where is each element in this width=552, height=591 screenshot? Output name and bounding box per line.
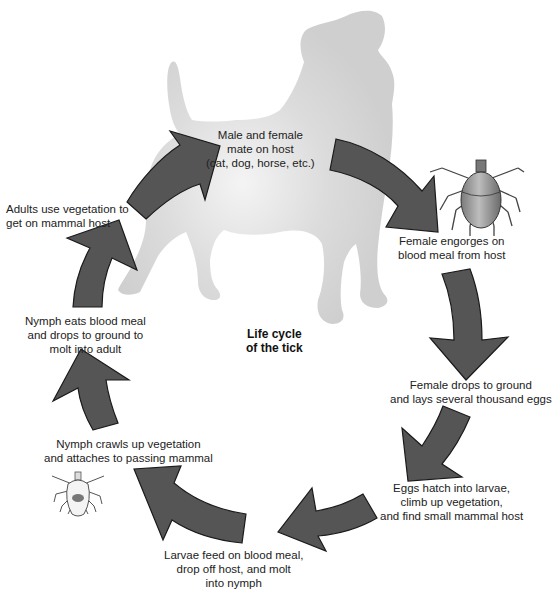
stage-label-lay-eggs: Female drops to ground and lays several … [390,378,552,406]
stage-label-larvae-feed: Larvae feed on blood meal, drop off host… [164,548,303,590]
arrow-hatch-to-larvae-icon [278,488,377,551]
arrow-lay-eggs-to-hatch-icon [402,406,470,481]
stage-label-nymph-attach: Nymph crawls up vegetation and attaches … [44,437,213,465]
stage-label-hatch: Eggs hatch into larvae, climb up vegetat… [380,481,523,523]
stage-label-nymph-molt: Nymph eats blood meal and drops to groun… [25,314,146,356]
stage-label-engorge: Female engorges on blood meal from host [398,234,505,262]
nymph-tick-icon [52,472,104,516]
diagram-title: Life cycle of the tick [246,327,303,355]
stage-label-adult-host: Adults use vegetation to get on mammal h… [6,202,129,230]
arrow-engorge-to-lay-eggs-icon [430,269,508,380]
stage-label-mate: Male and female mate on host (cat, dog, … [206,128,315,170]
arrow-larvae-to-nymph-icon [134,466,246,543]
arrow-nymph-attach-to-molt-icon [53,349,129,430]
engorged-female-tick-icon [430,160,524,236]
